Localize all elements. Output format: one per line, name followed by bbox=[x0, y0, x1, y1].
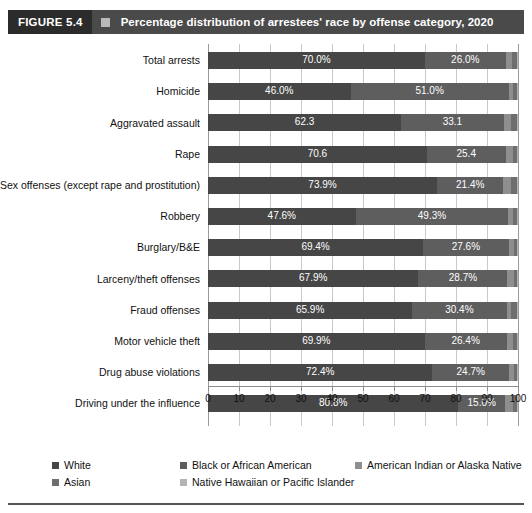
category-label: Larceny/theft offenses bbox=[97, 274, 200, 285]
stacked-bar[interactable]: 70.0%26.0% bbox=[208, 52, 518, 69]
bar-segment[interactable]: 69.4% bbox=[208, 239, 423, 256]
stacked-bar[interactable]: 46.0%51.0% bbox=[208, 83, 518, 100]
bar-segment[interactable]: 27.6% bbox=[423, 239, 509, 256]
bar-segment[interactable]: 30.4% bbox=[412, 302, 506, 319]
bar-row: Motor vehicle theft69.9%26.4% bbox=[208, 326, 518, 357]
bar-segment[interactable] bbox=[517, 239, 518, 256]
bar-segment[interactable]: 62.3 bbox=[208, 114, 401, 131]
stacked-bar[interactable]: 69.4%27.6% bbox=[208, 239, 518, 256]
bar-segment[interactable] bbox=[517, 333, 518, 350]
bar-value-label: 28.7% bbox=[449, 273, 477, 283]
bar-segment[interactable] bbox=[517, 177, 518, 194]
stacked-bar[interactable]: 70.625.4 bbox=[208, 146, 518, 163]
bar-segment[interactable]: 49.3% bbox=[356, 208, 509, 225]
bar-segment[interactable]: 46.0% bbox=[208, 83, 351, 100]
bar-segment[interactable] bbox=[506, 146, 513, 163]
bar-segment[interactable] bbox=[506, 52, 513, 69]
bar-segment[interactable]: 28.7% bbox=[418, 270, 507, 287]
bar-segment[interactable]: 72.4% bbox=[208, 364, 432, 381]
chart-container: Total arrests70.0%26.0%Homicide46.0%51.0… bbox=[0, 40, 532, 440]
bar-segment[interactable]: 73.9% bbox=[208, 177, 437, 194]
legend-item[interactable]: Native Hawaiian or Pacific Islander bbox=[180, 477, 354, 488]
bar-segment[interactable] bbox=[517, 114, 518, 131]
bar-segment[interactable] bbox=[503, 177, 511, 194]
bar-value-label: 47.6% bbox=[268, 211, 296, 221]
bar-segment[interactable]: 24.7% bbox=[432, 364, 509, 381]
stacked-bar[interactable]: 47.6%49.3% bbox=[208, 208, 518, 225]
bar-value-label: 67.9% bbox=[299, 273, 327, 283]
legend-item[interactable]: Asian bbox=[52, 477, 90, 488]
category-label: Aggravated assault bbox=[110, 118, 200, 129]
stacked-bar[interactable]: 67.9%28.7% bbox=[208, 270, 518, 287]
bar-segment[interactable] bbox=[517, 83, 518, 100]
stacked-bar[interactable]: 73.9%21.4% bbox=[208, 177, 518, 194]
category-label: Sex offenses (except rape and prostituti… bbox=[0, 180, 200, 191]
chart-legend: WhiteBlack or African AmericanAmerican I… bbox=[0, 455, 532, 497]
stacked-bar[interactable]: 72.4%24.7% bbox=[208, 364, 518, 381]
bar-segment[interactable]: 51.0% bbox=[351, 83, 509, 100]
axis-tick-label: 70 bbox=[419, 393, 430, 404]
bar-segment[interactable]: 47.6% bbox=[208, 208, 356, 225]
axis-tick bbox=[394, 386, 395, 391]
legend-swatch-icon bbox=[180, 479, 187, 486]
axis-tick bbox=[301, 386, 302, 391]
bar-value-label: 62.3 bbox=[295, 117, 314, 127]
axis-tick-label: 0 bbox=[205, 393, 211, 404]
legend-item[interactable]: American Indian or Alaska Native bbox=[355, 460, 522, 471]
axis-tick-label: 30 bbox=[295, 393, 306, 404]
axis-tick-label: 40 bbox=[326, 393, 337, 404]
bar-value-label: 51.0% bbox=[415, 86, 443, 96]
bar-segment[interactable]: 67.9% bbox=[208, 270, 418, 287]
bar-value-label: 65.9% bbox=[296, 305, 324, 315]
bar-value-label: 70.0% bbox=[302, 55, 330, 65]
axis-tick-label: 10 bbox=[233, 393, 244, 404]
axis-tick bbox=[270, 386, 271, 391]
bar-value-label: 30.4% bbox=[445, 305, 473, 315]
axis-tick-label: 80 bbox=[450, 393, 461, 404]
bar-value-label: 21.4% bbox=[456, 180, 484, 190]
bar-segment[interactable]: 26.0% bbox=[425, 52, 506, 69]
axis-tick bbox=[487, 386, 488, 391]
bar-value-label: 25.4 bbox=[456, 149, 475, 159]
bar-row: Total arrests70.0%26.0% bbox=[208, 45, 518, 76]
category-label: Motor vehicle theft bbox=[114, 336, 200, 347]
bar-segment[interactable]: 65.9% bbox=[208, 302, 412, 319]
stacked-bar[interactable]: 69.9%26.4% bbox=[208, 333, 518, 350]
bar-segment[interactable]: 70.6 bbox=[208, 146, 427, 163]
bar-row: Drug abuse violations72.4%24.7% bbox=[208, 357, 518, 388]
bar-segment[interactable] bbox=[517, 364, 518, 381]
bar-segment[interactable] bbox=[517, 146, 518, 163]
bar-segment[interactable]: 26.4% bbox=[425, 333, 507, 350]
bar-value-label: 26.0% bbox=[451, 55, 479, 65]
legend-item[interactable]: White bbox=[52, 460, 91, 471]
legend-label: Black or African American bbox=[192, 460, 312, 471]
axis-tick bbox=[456, 386, 457, 391]
stacked-bar[interactable]: 62.333.1 bbox=[208, 114, 518, 131]
bar-segment[interactable]: 69.9% bbox=[208, 333, 425, 350]
bar-segment[interactable] bbox=[517, 52, 518, 69]
figure-header: FIGURE 5.4 Percentage distribution of ar… bbox=[8, 10, 524, 34]
bar-value-label: 49.3% bbox=[418, 211, 446, 221]
category-label: Drug abuse violations bbox=[99, 367, 200, 378]
bar-segment[interactable]: 21.4% bbox=[437, 177, 503, 194]
axis-tick-label: 50 bbox=[357, 393, 368, 404]
stacked-bar[interactable]: 65.9%30.4% bbox=[208, 302, 518, 319]
bar-segment[interactable] bbox=[517, 302, 518, 319]
axis-tick-label: 100 bbox=[510, 393, 527, 404]
legend-label: Native Hawaiian or Pacific Islander bbox=[192, 477, 354, 488]
bar-segment[interactable]: 25.4 bbox=[427, 146, 506, 163]
bar-segment[interactable] bbox=[504, 114, 511, 131]
bar-segment[interactable] bbox=[517, 270, 518, 287]
axis-tick-label: 90 bbox=[481, 393, 492, 404]
bar-row: Robbery47.6%49.3% bbox=[208, 201, 518, 232]
legend-label: White bbox=[64, 460, 91, 471]
bar-segment[interactable]: 70.0% bbox=[208, 52, 425, 69]
square-marker-icon bbox=[101, 18, 110, 27]
bar-value-label: 46.0% bbox=[265, 86, 293, 96]
bar-segment[interactable]: 33.1 bbox=[401, 114, 504, 131]
bar-row: Sex offenses (except rape and prostituti… bbox=[208, 170, 518, 201]
category-label: Driving under the influence bbox=[75, 398, 200, 409]
bar-segment[interactable] bbox=[517, 208, 518, 225]
figure-number-badge: FIGURE 5.4 bbox=[8, 10, 92, 34]
legend-item[interactable]: Black or African American bbox=[180, 460, 312, 471]
